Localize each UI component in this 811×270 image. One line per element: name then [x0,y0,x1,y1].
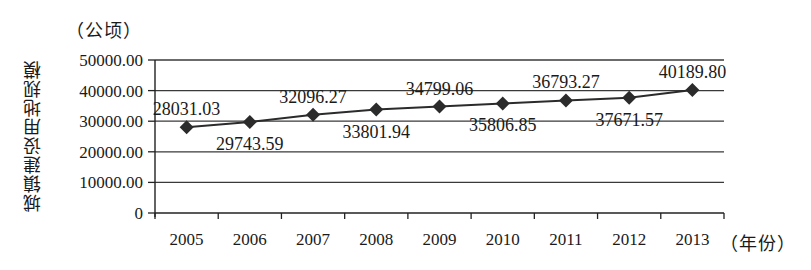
diamond-marker [433,100,447,114]
diamond-marker [243,115,257,129]
x-tick-labels: 200520062007200820092010201120122013 [170,230,710,249]
x-tick-label: 2013 [675,230,709,249]
data-label: 33801.94 [343,122,411,142]
y-tick-label: 40000.00 [79,82,143,101]
data-label: 35806.85 [469,115,537,135]
data-label: 32096.27 [279,87,347,107]
y-tick-labels: 010000.0020000.0030000.0040000.0050000.0… [79,51,143,223]
x-tick-label: 2007 [296,230,331,249]
x-tick-label: 2011 [549,230,582,249]
x-tick-label: 2008 [359,230,393,249]
x-tick-label: 2009 [423,230,457,249]
line-chart: 010000.0020000.0030000.0040000.0050000.0… [0,0,811,270]
x-tick-label: 2006 [233,230,267,249]
diamond-marker [306,108,320,122]
y-tick-label: 50000.00 [79,51,143,70]
diamond-marker [369,103,383,117]
data-label: 37671.57 [595,110,663,130]
diamond-marker [559,93,573,107]
data-label: 34799.06 [406,79,474,99]
data-label: 28031.03 [153,99,221,119]
diamond-marker [180,120,194,134]
diamond-marker [685,83,699,97]
y-tick-label: 30000.00 [79,112,143,131]
data-label: 40189.80 [659,62,727,82]
y-tick-label: 20000.00 [79,143,143,162]
x-tick-label: 2010 [486,230,520,249]
x-tick-label: 2012 [612,230,646,249]
y-tick-label: 10000.00 [79,173,143,192]
diamond-marker [496,96,510,110]
data-label: 36793.27 [532,72,600,92]
data-label: 29743.59 [216,134,284,154]
y-tick-label: 0 [135,204,144,223]
diamond-marker [622,91,636,105]
x-tick-label: 2005 [170,230,204,249]
